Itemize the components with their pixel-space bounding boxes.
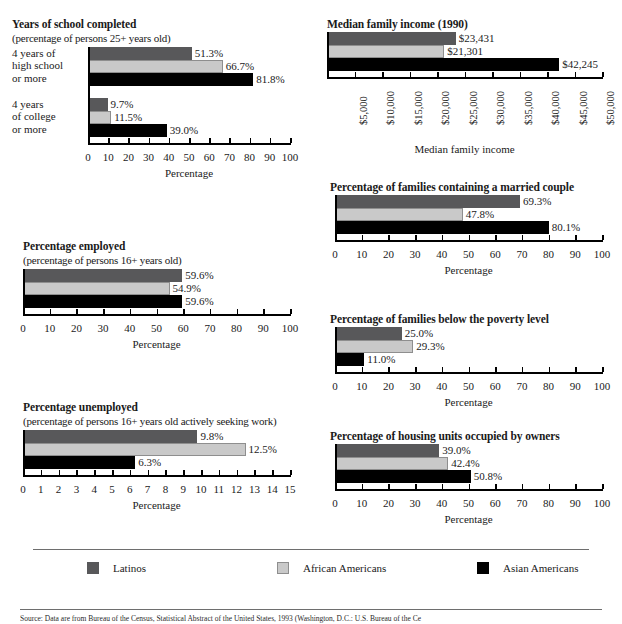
x-axis-tick — [437, 72, 439, 77]
legend-divider — [33, 549, 589, 550]
source-note: Source: Data are from Bureau of the Cens… — [20, 614, 614, 623]
bar-asian-americans — [327, 58, 559, 71]
x-axis-tick — [469, 367, 471, 372]
x-axis-tick — [229, 138, 231, 143]
x-axis-line — [335, 372, 603, 374]
x-axis-tick — [355, 72, 357, 77]
bar-african-americans — [88, 111, 111, 124]
bar-value-label: $21,301 — [447, 45, 483, 58]
x-axis-tick — [388, 235, 390, 240]
bar-value-label: 42.4% — [451, 457, 479, 470]
bar-african-americans — [335, 340, 413, 353]
x-axis-tick — [128, 138, 130, 143]
bar-value-label: 39.0% — [170, 124, 198, 137]
bar-asian-americans — [23, 456, 135, 469]
x-axis-tick — [415, 484, 417, 489]
x-axis-line — [23, 314, 291, 316]
x-axis-tick-label: $35,000 — [524, 91, 535, 125]
chart-title: Percentage of families below the poverty… — [330, 313, 622, 326]
bar-value-label: 12.5% — [249, 443, 277, 456]
chart-panel-families-married-couple: Percentage of families containing a marr… — [312, 181, 622, 335]
x-axis-tick — [41, 470, 43, 475]
category-label: 4 yearsof collegeor more — [12, 98, 86, 136]
bar-latinos — [335, 327, 402, 340]
x-axis-label: Percentage — [335, 396, 602, 408]
x-axis-label: Percentage — [23, 338, 290, 350]
chart-title: Percentage of housing units occupied by … — [330, 430, 622, 443]
x-axis-tick — [415, 367, 417, 372]
x-axis-tick — [335, 367, 337, 372]
bar-african-americans — [335, 208, 463, 221]
x-axis-tick-label: $10,000 — [386, 91, 397, 125]
x-axis-tick — [575, 72, 577, 77]
x-axis-tick — [410, 72, 412, 77]
black-swatch — [477, 562, 489, 574]
x-axis-label: Percentage — [23, 499, 290, 511]
chart-subtitle: (percentage of persons 16+ years old act… — [23, 415, 312, 428]
chart-subtitle: (percentage of persons 25+ years old) — [12, 32, 312, 45]
x-axis-tick — [112, 470, 114, 475]
x-axis-tick — [469, 235, 471, 240]
category-label-line: high school — [12, 59, 86, 72]
x-axis-tick — [103, 309, 105, 314]
x-axis-tick — [492, 72, 494, 77]
bar-value-label: 39.0% — [442, 444, 470, 457]
x-axis-tick — [254, 470, 256, 475]
x-axis-tick — [442, 235, 444, 240]
x-axis-tick — [23, 309, 25, 314]
chart-panel-years-of-school-completed: Years of school completed(percentage of … — [0, 18, 312, 205]
x-axis-tick — [549, 484, 551, 489]
bar-asian-americans — [335, 470, 471, 483]
x-axis-tick — [88, 138, 90, 143]
bar-asian-americans — [88, 73, 253, 86]
bar-value-label: 66.7% — [226, 60, 254, 73]
x-axis-tick — [602, 235, 604, 240]
chart-title: Median family income (1990) — [327, 18, 622, 31]
category-label-line: or more — [12, 72, 86, 85]
figure-sheet: Years of school completed(percentage of … — [0, 0, 622, 624]
x-axis-tick — [522, 367, 524, 372]
x-axis-tick — [442, 367, 444, 372]
bar-value-label: 11.0% — [367, 353, 395, 366]
x-axis-tick — [94, 470, 96, 475]
x-axis-tick-label: $15,000 — [414, 91, 425, 125]
bar-value-label: 51.3% — [195, 47, 223, 60]
x-axis-line — [335, 240, 603, 242]
x-axis-tick — [189, 138, 191, 143]
x-axis-tick — [520, 72, 522, 77]
x-axis-tick — [165, 470, 167, 475]
x-axis-tick — [495, 235, 497, 240]
chart-title: Percentage employed — [23, 240, 312, 253]
bar-value-label: 6.3% — [138, 456, 161, 469]
x-axis-tick — [547, 72, 549, 77]
x-axis-tick — [59, 470, 61, 475]
x-axis-tick — [327, 72, 329, 77]
x-axis-tick — [335, 484, 337, 489]
bar-latinos — [23, 430, 197, 443]
bar-asian-americans — [23, 295, 182, 308]
x-axis-tick-label: 100 — [582, 249, 622, 260]
x-axis-tick-label: 100 — [270, 323, 310, 334]
bar-value-label: 29.3% — [416, 340, 444, 353]
x-axis-tick — [169, 138, 171, 143]
x-axis-tick — [495, 484, 497, 489]
plot-area: 51.3%66.7%81.8%4 years ofhigh schoolor m… — [0, 47, 312, 205]
y-axis-line — [335, 195, 337, 240]
bar-latinos — [335, 195, 520, 208]
bar-value-label: 54.9% — [173, 282, 201, 295]
x-axis-tick-label: $5,000 — [359, 96, 370, 125]
x-axis-label: Percentage — [335, 264, 602, 276]
x-axis-tick — [50, 309, 52, 314]
x-axis-tick — [148, 470, 150, 475]
legend: LatinosAfrican AmericansAsian Americans — [33, 562, 589, 578]
x-axis-tick — [290, 138, 292, 143]
bar-latinos — [335, 444, 439, 457]
x-axis-line — [88, 143, 291, 145]
bar-value-label: 9.7% — [111, 98, 134, 111]
bar-value-label: 47.8% — [466, 208, 494, 221]
category-label-line: 4 years — [12, 98, 86, 111]
chart-panel-percentage-employed: Percentage employed(percentage of person… — [0, 240, 312, 427]
x-axis-tick — [442, 484, 444, 489]
x-axis-tick — [388, 367, 390, 372]
category-label-line: 4 years of — [12, 47, 86, 60]
